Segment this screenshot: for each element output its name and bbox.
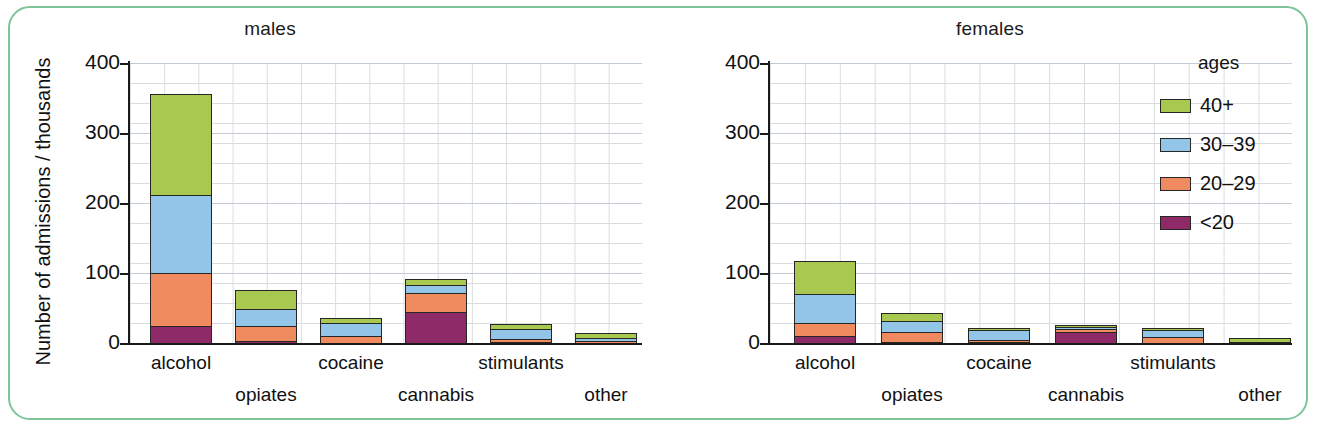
bar-females-opiates (881, 313, 943, 343)
x-axis-males (128, 343, 642, 345)
y-tick-label-200: 200 (64, 190, 120, 214)
legend-swatch-under20 (1160, 216, 1191, 230)
y-tick-label-400-f: 400 (704, 50, 760, 74)
panel-females: females 400 300 200 100 0 alcohol opiate… (660, 0, 1320, 429)
bar-males-alcohol (150, 94, 212, 343)
x-label-cannabis: cannabis (398, 384, 474, 406)
y-tick-label-100-f: 100 (704, 260, 760, 284)
panel-males: males Number of admissions / thousands 4… (0, 0, 660, 429)
y-tick-0-f (760, 343, 769, 345)
y-tick-label-300-f: 300 (704, 120, 760, 144)
bar-segment-alcohol-30–39 (150, 195, 212, 274)
bar-segment-alcohol-<20 (150, 326, 212, 345)
x-label-opiates-f: opiates (881, 384, 942, 406)
bar-males-stimulants (490, 324, 552, 343)
legend-label-30-39: 30–39 (1200, 133, 1256, 156)
y-tick-400-f (760, 63, 769, 65)
legend-row-under20: <20 (1160, 203, 1310, 242)
x-label-cocaine: cocaine (318, 352, 384, 374)
legend-row-30-39: 30–39 (1160, 125, 1310, 164)
legend-row-20-29: 20–29 (1160, 164, 1310, 203)
x-label-other: other (584, 384, 627, 406)
y-tick-100-f (760, 273, 769, 275)
bar-segment-alcohol-40+ (150, 94, 212, 197)
legend-row-40plus: 40+ (1160, 86, 1310, 125)
y-tick-0 (120, 343, 129, 345)
x-label-cannabis-f: cannabis (1048, 384, 1124, 406)
legend-label-under20: <20 (1200, 211, 1234, 234)
bar-females-cannabis (1055, 325, 1117, 343)
bar-segment-cannabis-20–29 (405, 293, 467, 313)
legend-label-20-29: 20–29 (1200, 172, 1256, 195)
chart-legend: ages 40+ 30–39 20–29 <20 (1160, 52, 1310, 242)
bar-females-alcohol (794, 261, 856, 343)
bar-segment-opiates-30–39 (235, 309, 297, 328)
legend-title: ages (1198, 52, 1310, 74)
bar-males-cocaine (320, 318, 382, 343)
bar-segment-alcohol-40+ (794, 261, 856, 295)
x-label-stimulants-f: stimulants (1130, 352, 1216, 374)
bar-males-cannabis (405, 279, 467, 343)
y-tick-400 (120, 63, 129, 65)
panel-title-females: females (660, 18, 1320, 40)
y-tick-label-0-f: 0 (704, 330, 760, 354)
y-tick-label-300: 300 (64, 120, 120, 144)
legend-label-40plus: 40+ (1200, 94, 1234, 117)
y-tick-label-100: 100 (64, 260, 120, 284)
bar-segment-alcohol-30–39 (794, 294, 856, 325)
bar-segment-opiates-40+ (235, 290, 297, 310)
x-label-alcohol: alcohol (151, 352, 211, 374)
bar-females-cocaine (968, 328, 1030, 343)
y-tick-label-200-f: 200 (704, 190, 760, 214)
legend-swatch-40plus (1160, 99, 1191, 113)
panel-title-males: males (0, 18, 600, 40)
y-tick-100 (120, 273, 129, 275)
bar-females-stimulants (1142, 328, 1204, 343)
bar-segment-alcohol-20–29 (150, 273, 212, 328)
legend-swatch-30-39 (1160, 138, 1191, 152)
bar-segment-cannabis-<20 (405, 312, 467, 345)
y-tick-label-400: 400 (64, 50, 120, 74)
y-axis-title: Number of admissions / thousands (32, 47, 55, 377)
bar-males-opiates (235, 290, 297, 343)
y-tick-label-0: 0 (64, 330, 120, 354)
x-label-stimulants: stimulants (478, 352, 564, 374)
y-tick-200-f (760, 203, 769, 205)
x-label-other-f: other (1238, 384, 1281, 406)
legend-swatch-20-29 (1160, 177, 1191, 191)
x-label-opiates: opiates (235, 384, 296, 406)
bars-layer-males (130, 63, 642, 343)
bar-males-other (575, 333, 637, 343)
y-tick-200 (120, 203, 129, 205)
x-label-cocaine-f: cocaine (966, 352, 1032, 374)
x-axis-females (768, 343, 1292, 345)
y-tick-300 (120, 133, 129, 135)
y-tick-300-f (760, 133, 769, 135)
x-label-alcohol-f: alcohol (795, 352, 855, 374)
